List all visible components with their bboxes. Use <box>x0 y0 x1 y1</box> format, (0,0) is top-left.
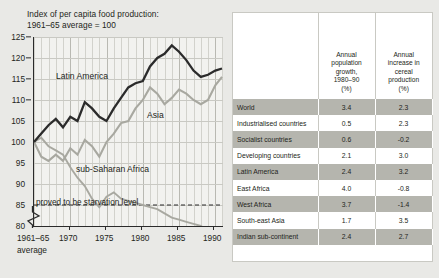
table-header-row: Index of per capita food production: 196… <box>233 13 432 99</box>
row-label-developing-countries: Developing countries <box>233 148 318 164</box>
row-cereal-developing-countries: 3.0 <box>375 148 432 164</box>
y-tick-mark-115 <box>26 78 31 79</box>
statistics-table: Index of per capita food production: 196… <box>233 13 433 245</box>
hdr-pop-l3: growth, <box>322 68 372 76</box>
y-tick-mark-120 <box>26 57 31 58</box>
row-pop-east-africa: 4.0 <box>318 180 375 196</box>
x-tick-label-1975: 1975 <box>95 233 113 243</box>
row-label-south-east-asia: South-east Asia <box>233 212 318 228</box>
hdr-pop-l5: (%) <box>322 85 372 93</box>
y-axis-break-icon <box>26 206 42 228</box>
row-cereal-socialist-countries: -0.2 <box>375 131 432 147</box>
row-pop-west-africa: 3.7 <box>318 196 375 212</box>
y-tick-label-125: 125 <box>11 32 25 42</box>
y-tick-label-80: 80 <box>16 221 25 231</box>
series-line-sub-saharan-africa <box>34 138 215 226</box>
hdr-pop-l1: Annual <box>322 51 372 59</box>
row-label-east-africa: East Africa <box>233 180 318 196</box>
row-label-west-africa: West Africa <box>233 196 318 212</box>
chart-title: Index of per capita food production: 196… <box>27 9 222 30</box>
x-tick-mark-1975 <box>105 226 106 230</box>
row-pop-industrialised-countries: 0.5 <box>318 115 375 131</box>
y-tick-label-95: 95 <box>16 158 25 168</box>
row-pop-latin-america: 2.4 <box>318 164 375 180</box>
y-tick-label-85: 85 <box>16 200 25 210</box>
row-label-socialist-countries: Socialist countries <box>233 131 318 147</box>
row-cereal-latin-america: 3.2 <box>375 164 432 180</box>
y-tick-label-100: 100 <box>11 137 25 147</box>
row-cereal-industrialised-countries: 2.3 <box>375 115 432 131</box>
row-pop-world: 3.4 <box>318 99 375 115</box>
hdr-cer-l5: (%) <box>379 85 430 93</box>
row-pop-developing-countries: 2.1 <box>318 148 375 164</box>
x-tick-label-1961-65: 1961–65 <box>17 233 49 243</box>
y-tick-label-115: 115 <box>12 74 25 84</box>
series-label-sub-saharan-africa: sub-Saharan Africa <box>76 164 149 174</box>
table-row: Socialist countries 0.6 -0.2 <box>233 131 432 147</box>
x-tick-label-1980: 1980 <box>131 233 149 243</box>
row-cereal-indian-sub-continent: 2.7 <box>375 229 432 245</box>
x-tick-mark-1970 <box>69 226 70 230</box>
table-row: West Africa 3.7 -1.4 <box>233 196 432 212</box>
table-header-region <box>233 13 318 99</box>
x-tick-label-1990: 1990 <box>203 233 221 243</box>
hdr-cer-l4: production <box>379 76 430 84</box>
table-header-cereal-production: Annual increase in cereal production (%) <box>375 13 432 99</box>
y-tick-mark-110 <box>26 99 31 100</box>
row-label-latin-america: Latin America <box>233 164 318 180</box>
figure-root: Index of per capita food production: 196… <box>0 0 439 278</box>
table-row: South-east Asia 1.7 3.5 <box>233 212 432 228</box>
y-tick-label-120: 120 <box>11 53 25 63</box>
table-row: World 3.4 2.3 <box>233 99 432 115</box>
table-row: Industrialised countries 0.5 2.3 <box>233 115 432 131</box>
series-label-latin-america: Latin America <box>56 71 108 81</box>
row-cereal-south-east-asia: 3.5 <box>375 212 432 228</box>
y-tick-label-105: 105 <box>11 116 25 126</box>
series-label-asia: Asia <box>147 110 164 120</box>
x-tick-label-average: average <box>17 245 47 255</box>
row-cereal-world: 2.3 <box>375 99 432 115</box>
hdr-cer-l3: cereal <box>379 68 430 76</box>
row-label-industrialised-countries: Industrialised countries <box>233 115 318 131</box>
row-label-indian-sub-continent: Indian sub-continent <box>233 229 318 245</box>
x-tick-mark-1980 <box>141 226 142 230</box>
y-tick-label-110: 110 <box>12 95 25 105</box>
y-tick-label-90: 90 <box>16 179 25 189</box>
chart-title-line-1: Index of per capita food production: <box>27 9 222 20</box>
chart-panel: Index of per capita food production: 196… <box>0 0 228 278</box>
x-axis-line <box>33 226 223 227</box>
x-tick-mark-1990 <box>213 226 214 230</box>
table-body: World 3.4 2.3 Industrialised countries 0… <box>233 99 432 245</box>
chart-title-line-2: 1961–65 average = 100 <box>27 20 222 31</box>
x-tick-mark-1985 <box>177 226 178 230</box>
series-line-latin-america <box>34 45 222 142</box>
table-row: Developing countries 2.1 3.0 <box>233 148 432 164</box>
table-row: Latin America 2.4 3.2 <box>233 164 432 180</box>
hdr-cer-l1: Annual <box>379 51 430 59</box>
statistics-table-panel: Index of per capita food production: 196… <box>232 12 433 262</box>
table-row: East Africa 4.0 -0.8 <box>233 180 432 196</box>
hdr-pop-l4: 1980–90 <box>322 76 372 84</box>
hdr-cer-l2: increase in <box>379 59 430 67</box>
row-pop-socialist-countries: 0.6 <box>318 131 375 147</box>
starvation-level-annotation: proved to be starvation level <box>36 198 138 207</box>
x-tick-label-1985: 1985 <box>167 233 185 243</box>
row-pop-indian-sub-continent: 2.4 <box>318 229 375 245</box>
table-row: Indian sub-continent 2.4 2.7 <box>233 229 432 245</box>
row-cereal-west-africa: -1.4 <box>375 196 432 212</box>
table-header-population-growth: Index of per capita food production: 196… <box>318 13 375 99</box>
row-label-world: World <box>233 99 318 115</box>
x-tick-label-1970: 1970 <box>59 233 77 243</box>
hdr-pop-l2: population <box>322 59 372 67</box>
y-tick-mark-125 <box>26 36 31 37</box>
row-cereal-east-africa: -0.8 <box>375 180 432 196</box>
row-pop-south-east-asia: 1.7 <box>318 212 375 228</box>
